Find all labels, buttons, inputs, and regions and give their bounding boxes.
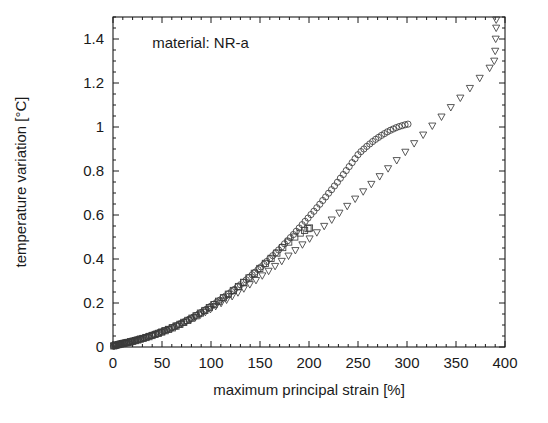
y-tick-label: 1.2 [83, 74, 104, 91]
x-tick-label-group: 050100150200250300350400 [109, 354, 518, 371]
x-tick-label: 300 [394, 354, 419, 371]
x-axis-label: maximum principal strain [%] [213, 381, 405, 398]
y-tick-label: 0.2 [83, 294, 104, 311]
y-tick-label: 0.4 [83, 250, 104, 267]
x-tick-label: 250 [345, 354, 370, 371]
y-tick-label: 0.6 [83, 206, 104, 223]
y-tick-label: 1.4 [83, 30, 104, 47]
x-tick-label: 200 [296, 354, 321, 371]
y-axis-label: temperature variation [°C] [12, 96, 29, 267]
x-tick-label: 150 [247, 354, 272, 371]
x-tick-label: 100 [198, 354, 223, 371]
y-tick-label: 1 [96, 118, 104, 135]
y-tick-label: 0 [96, 338, 104, 355]
x-tick-label: 400 [492, 354, 517, 371]
x-tick-label: 50 [154, 354, 171, 371]
annotation-layer: material: NR-a [152, 34, 249, 51]
scatter-chart: 050100150200250300350400 00.20.40.60.811… [0, 0, 548, 423]
x-tick-label: 0 [109, 354, 117, 371]
x-tick-label: 350 [443, 354, 468, 371]
chart-annotation: material: NR-a [152, 34, 249, 51]
figure-container: 050100150200250300350400 00.20.40.60.811… [0, 0, 548, 423]
y-tick-label: 0.8 [83, 162, 104, 179]
